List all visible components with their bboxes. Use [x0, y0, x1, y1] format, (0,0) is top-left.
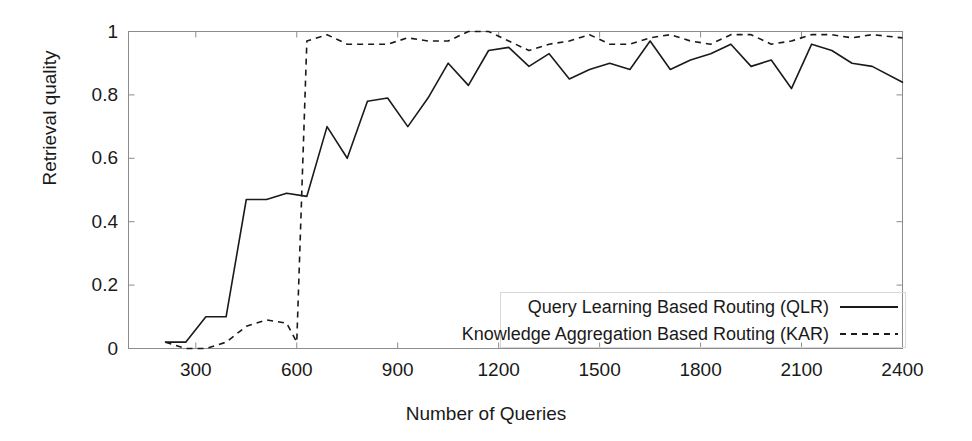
x-tick-label: 1500 [555, 360, 645, 379]
y-tick-label: 0.4 [60, 212, 118, 231]
legend-item-kar: Knowledge Aggregation Based Routing (KAR… [501, 320, 907, 348]
y-axis-title-text: Retrieval quality [39, 50, 61, 185]
y-tick-label: 1 [60, 22, 118, 41]
legend-item-qlr: Query Learning Based Routing (QLR) [501, 293, 907, 321]
x-tick-label: 1800 [656, 360, 746, 379]
x-tick-label: 1200 [454, 360, 544, 379]
chart-legend: Query Learning Based Routing (QLR) Knowl… [500, 292, 906, 348]
y-axis-title: Retrieval quality [35, 0, 65, 238]
y-tick-label: 0 [60, 339, 118, 358]
chart-figure: 00.20.40.60.81 3006009001200150018002100… [0, 0, 972, 441]
x-tick-label: 2400 [858, 360, 948, 379]
x-tick-label: 900 [353, 360, 443, 379]
x-tick-label: 600 [252, 360, 342, 379]
x-axis-title: Number of Queries [0, 403, 972, 425]
legend-label-kar: Knowledge Aggregation Based Routing (KAR… [462, 324, 829, 345]
y-tick-label: 0.6 [60, 148, 118, 167]
x-tick-label: 2100 [757, 360, 847, 379]
y-tick-label: 0.2 [60, 275, 118, 294]
legend-label-qlr: Query Learning Based Routing (QLR) [528, 297, 829, 318]
x-tick-label: 300 [151, 360, 241, 379]
legend-swatch-dashed [839, 328, 899, 340]
legend-swatch-solid [839, 301, 899, 313]
y-tick-label: 0.8 [60, 85, 118, 104]
